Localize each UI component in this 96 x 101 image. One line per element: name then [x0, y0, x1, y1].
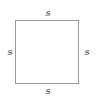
side-label-left: s — [5, 47, 15, 57]
side-label-top: s — [43, 8, 53, 18]
side-label-right: s — [82, 47, 92, 57]
square-shape — [15, 20, 79, 84]
side-label-bottom: s — [43, 86, 53, 96]
